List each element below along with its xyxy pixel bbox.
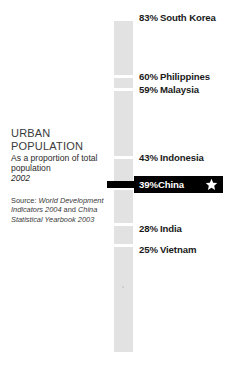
data-value-vietnam: 25% bbox=[139, 244, 158, 255]
data-name-vietnam: Vietnam bbox=[160, 244, 196, 255]
data-value-china: 39% bbox=[139, 179, 158, 190]
data-name-philippines: Philippines bbox=[160, 71, 210, 82]
data-value-indonesia: 43% bbox=[139, 152, 158, 163]
data-label-philippines: 60%Philippines bbox=[139, 71, 210, 82]
page-title: URBAN POPULATION bbox=[11, 127, 107, 152]
data-label-vietnam: 25%Vietnam bbox=[139, 244, 196, 255]
scale-gap-malaysia bbox=[114, 88, 133, 91]
chart-subtitle: As a proportion of total population bbox=[11, 153, 107, 173]
china-callout-tail bbox=[107, 181, 136, 188]
data-value-malaysia: 59% bbox=[139, 84, 158, 95]
data-name-indonesia: Indonesia bbox=[160, 152, 204, 163]
data-label-south-korea: 83%South Korea bbox=[139, 12, 216, 23]
source-conjunction: and bbox=[62, 205, 78, 214]
source-prefix: Source: bbox=[11, 196, 39, 205]
subtitle-line-2: population bbox=[11, 163, 107, 173]
data-name-south-korea: South Korea bbox=[160, 12, 216, 23]
data-label-malaysia: 59%Malaysia bbox=[139, 84, 199, 95]
china-callout-box: 39%China bbox=[134, 176, 223, 193]
data-value-philippines: 60% bbox=[139, 71, 158, 82]
subtitle-line-1: As a proportion of total bbox=[11, 153, 107, 163]
star-icon bbox=[205, 178, 218, 191]
data-label-china-text: 39%China bbox=[139, 179, 184, 190]
scale-gap-vietnam bbox=[114, 244, 133, 247]
data-value-south-korea: 83% bbox=[139, 12, 158, 23]
source-title-2: Indicators 2004 bbox=[11, 205, 62, 214]
scale-gap-indonesia bbox=[114, 156, 133, 159]
scale-gap-south-korea bbox=[114, 18, 133, 21]
scale-gap-philippines bbox=[114, 75, 133, 78]
data-value-india: 28% bbox=[139, 223, 158, 234]
title-line-1: URBAN bbox=[11, 127, 107, 140]
data-label-indonesia: 43%Indonesia bbox=[139, 152, 204, 163]
info-panel: URBAN POPULATION As a proportion of tota… bbox=[11, 127, 107, 224]
scale-gap-india bbox=[114, 223, 133, 226]
chart-source: Source: World Development Indicators 200… bbox=[11, 196, 107, 224]
column-dot-marker bbox=[122, 286, 124, 288]
data-name-malaysia: Malaysia bbox=[160, 84, 199, 95]
chart-year: 2002 bbox=[11, 173, 107, 183]
title-line-2: POPULATION bbox=[11, 140, 107, 153]
data-name-india: India bbox=[160, 223, 182, 234]
data-name-china: China bbox=[158, 179, 184, 190]
source-title-1: World Development bbox=[39, 196, 104, 205]
data-label-india: 28%India bbox=[139, 223, 182, 234]
source-title-4: Statistical Yearbook 2003 bbox=[11, 215, 94, 224]
source-title-3: China bbox=[78, 205, 97, 214]
